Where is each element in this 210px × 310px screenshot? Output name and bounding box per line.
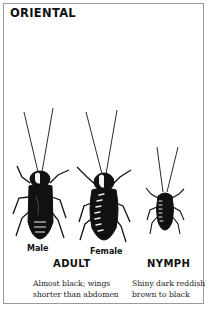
male-adult-cockroach-icon [13,108,69,239]
nymph-description: Shiny dark reddish brown to black [132,279,205,300]
nymph-description-line-2: brown to black [132,290,205,301]
adult-heading: ADULT [53,258,91,269]
nymph-heading: NYMPH [147,258,190,269]
female-label: Female [90,247,122,256]
adult-description: Almost black; wings shorter than abdomen [33,279,119,300]
nymph-description-line-1: Shiny dark reddish [132,279,205,290]
adult-description-line-2: shorter than abdomen [33,290,119,301]
nymph-cockroach-icon [146,147,184,234]
adult-description-line-1: Almost black; wings [33,279,119,290]
female-adult-cockroach-icon [77,110,131,242]
male-label: Male [27,244,49,253]
